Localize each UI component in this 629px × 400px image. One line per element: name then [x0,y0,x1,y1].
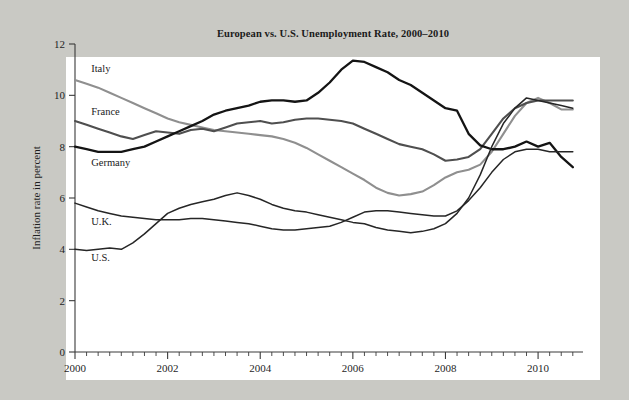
x-axis-tick-label: 2006 [342,362,365,374]
series-lines [75,61,573,251]
y-axis-tick-label: 12 [54,38,65,50]
series-label-germany: Germany [91,157,131,168]
y-axis-tick-label: 10 [54,89,66,101]
series-label-france: France [91,106,120,117]
x-axis-tick-label: 2008 [434,362,457,374]
x-axis-tick-label: 2000 [64,362,87,374]
series-line-italy [75,80,573,195]
x-axis-tick-label: 2002 [157,362,179,374]
series-label-uk: U.K. [91,216,111,227]
x-axis-tick-label: 2010 [527,362,550,374]
axes: 024681012200020022004200620082010Inflati… [30,38,583,374]
y-axis-tick-label: 4 [60,243,66,255]
series-line-us [75,98,573,251]
x-axis-tick-label: 2004 [249,362,272,374]
y-axis-tick-label: 2 [60,295,66,307]
y-axis-tick-label: 6 [60,192,66,204]
series-label-us: U.S. [91,252,110,263]
unemployment-line-chart: 024681012200020022004200620082010Inflati… [0,0,629,400]
figure-card: European vs. U.S. Unemployment Rate, 200… [66,57,600,380]
y-axis-tick-label: 0 [60,346,66,358]
y-axis-tick-label: 8 [60,141,66,153]
series-line-germany [75,61,573,168]
series-label-italy: Italy [91,63,111,74]
y-axis-title: Inflation rate in percent [30,146,42,250]
series-line-uk [75,149,573,230]
